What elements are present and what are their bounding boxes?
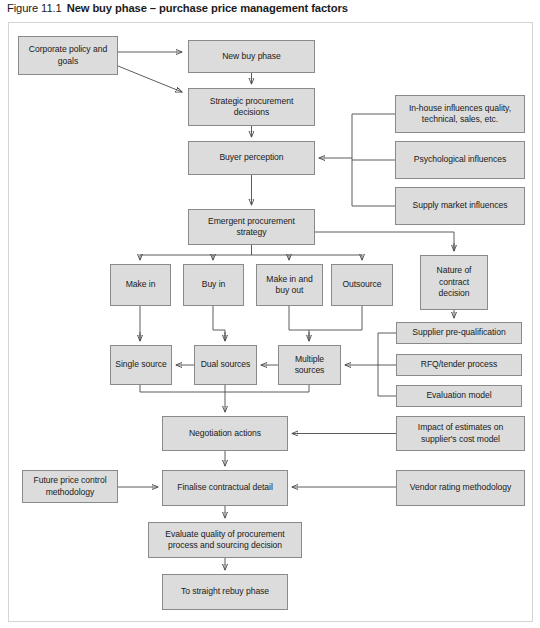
- node-impact-of-estimates-label: Impact of estimates on supplier's cost m…: [400, 422, 521, 445]
- node-multiple-sources-label: Multiple sources: [282, 354, 337, 377]
- node-buy-in-label: Buy in: [187, 279, 240, 290]
- node-buy-in[interactable]: Buy in: [183, 264, 244, 306]
- node-to-straight-rebuy-phase[interactable]: To straight rebuy phase: [162, 574, 288, 610]
- node-new-buy-phase-label: New buy phase: [192, 51, 311, 62]
- node-rfq-tender-process-label: RFQ/tender process: [400, 359, 518, 370]
- node-negotiation-actions[interactable]: Negotiation actions: [162, 416, 288, 451]
- node-supplier-pre-qualification-label: Supplier pre-qualification: [400, 327, 518, 338]
- node-evaluate-quality-label: Evaluate quality of procurement process …: [152, 529, 298, 552]
- node-emergent-procurement-strategy-label: Emergent procurement strategy: [192, 216, 311, 239]
- figure-page: Figure 11.1New buy phase – purchase pric…: [0, 0, 540, 628]
- node-vendor-rating-methodology[interactable]: Vendor rating methodology: [396, 470, 525, 506]
- node-make-in-and-buy-out-label: Make in and buy out: [260, 274, 319, 297]
- node-supply-market-influences[interactable]: Supply market influences: [395, 187, 525, 225]
- node-rfq-tender-process[interactable]: RFQ/tender process: [396, 354, 522, 376]
- node-to-straight-rebuy-phase-label: To straight rebuy phase: [166, 586, 284, 597]
- node-multiple-sources[interactable]: Multiple sources: [278, 345, 341, 385]
- node-corporate-policy[interactable]: Corporate policy and goals: [18, 36, 118, 75]
- node-dual-sources[interactable]: Dual sources: [194, 345, 257, 385]
- node-impact-of-estimates[interactable]: Impact of estimates on supplier's cost m…: [396, 416, 525, 451]
- node-evaluation-model[interactable]: Evaluation model: [396, 385, 522, 407]
- node-buyer-perception[interactable]: Buyer perception: [188, 141, 315, 175]
- node-finalise-contractual-detail-label: Finalise contractual detail: [166, 482, 284, 493]
- node-make-in-label: Make in: [114, 279, 167, 290]
- node-make-in[interactable]: Make in: [110, 264, 171, 306]
- node-finalise-contractual-detail[interactable]: Finalise contractual detail: [162, 470, 288, 506]
- node-in-house-influences[interactable]: In-house influences quality, technical, …: [395, 95, 525, 133]
- node-vendor-rating-methodology-label: Vendor rating methodology: [400, 482, 521, 493]
- node-single-source-label: Single source: [114, 359, 168, 370]
- node-in-house-influences-label: In-house influences quality, technical, …: [399, 103, 521, 126]
- node-outsource[interactable]: Outsource: [331, 264, 393, 306]
- node-future-price-control-methodology[interactable]: Future price control methodology: [22, 470, 118, 503]
- node-future-price-control-methodology-label: Future price control methodology: [26, 475, 114, 498]
- node-dual-sources-label: Dual sources: [198, 359, 253, 370]
- node-psychological-influences-label: Psychological influences: [399, 154, 521, 165]
- node-evaluate-quality[interactable]: Evaluate quality of procurement process …: [148, 522, 302, 558]
- node-buyer-perception-label: Buyer perception: [192, 152, 311, 163]
- node-negotiation-actions-label: Negotiation actions: [166, 428, 284, 439]
- node-single-source[interactable]: Single source: [110, 345, 172, 385]
- node-nature-of-contract-decision[interactable]: Nature of contract decision: [420, 255, 488, 310]
- node-outsource-label: Outsource: [335, 279, 389, 290]
- node-evaluation-model-label: Evaluation model: [400, 390, 518, 401]
- node-strategic-procurement-decisions[interactable]: Strategic procurement decisions: [188, 88, 315, 126]
- node-strategic-procurement-decisions-label: Strategic procurement decisions: [192, 96, 311, 119]
- node-make-in-and-buy-out[interactable]: Make in and buy out: [256, 264, 323, 306]
- diagram-canvas: Corporate policy and goals New buy phase…: [0, 0, 540, 628]
- node-supply-market-influences-label: Supply market influences: [399, 200, 521, 211]
- node-supplier-pre-qualification[interactable]: Supplier pre-qualification: [396, 322, 522, 344]
- node-nature-of-contract-decision-label: Nature of contract decision: [424, 265, 484, 299]
- node-new-buy-phase[interactable]: New buy phase: [188, 40, 315, 73]
- node-psychological-influences[interactable]: Psychological influences: [395, 141, 525, 179]
- node-emergent-procurement-strategy[interactable]: Emergent procurement strategy: [188, 209, 315, 245]
- node-corporate-policy-label: Corporate policy and goals: [22, 44, 114, 67]
